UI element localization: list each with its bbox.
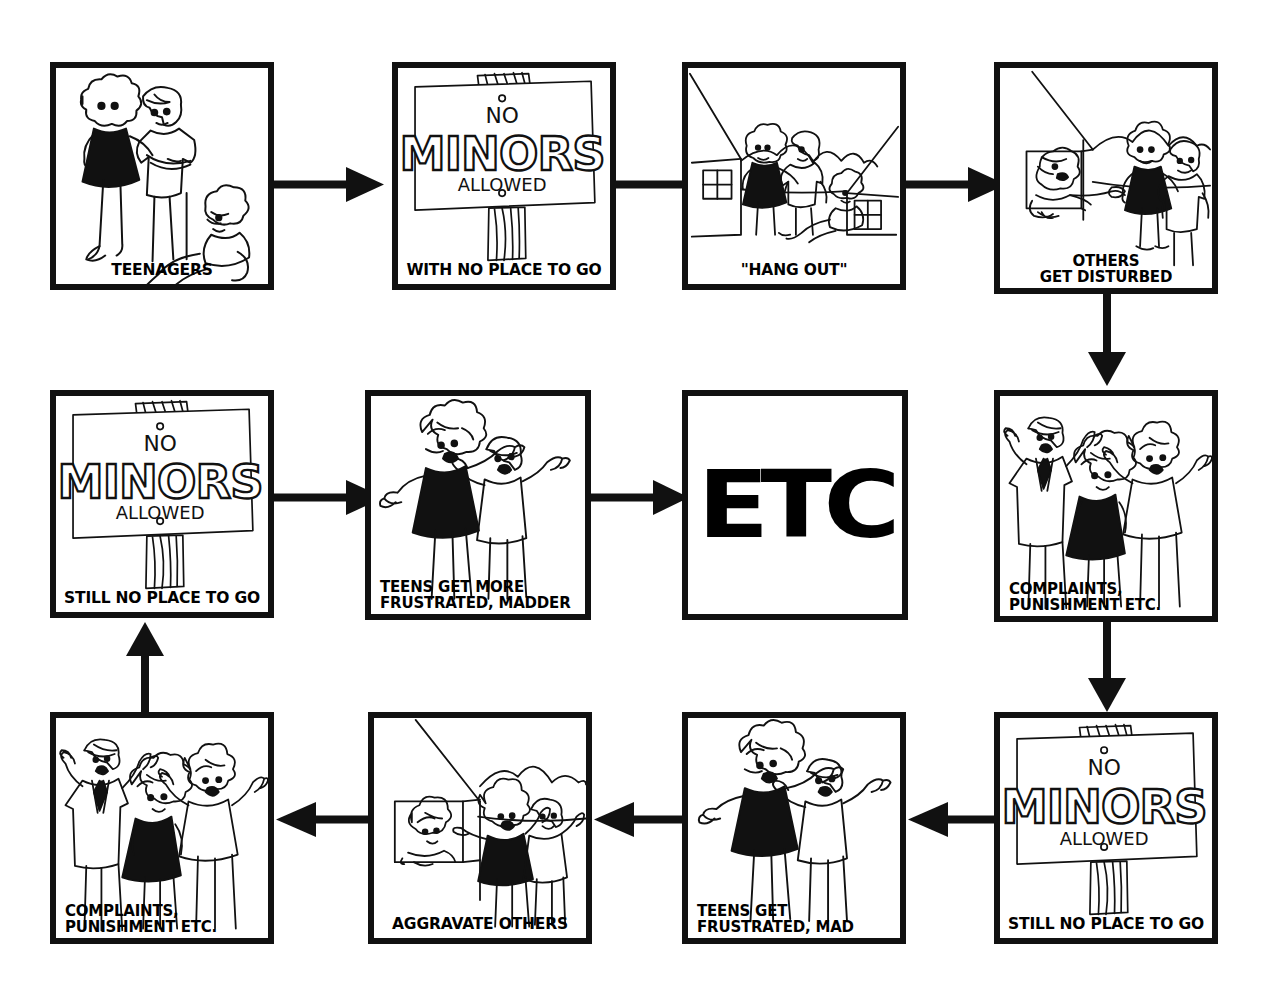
three-teenagers-illustration	[56, 68, 268, 284]
arrow-right-5	[589, 478, 697, 518]
flowchart-figure: TEENAGERS	[0, 0, 1270, 996]
etc-label: ETC	[698, 459, 893, 552]
three-angry-adults-illustration	[1000, 396, 1212, 616]
panel-teens-frustrated: TEENS GET FRUSTRATED, MAD	[682, 712, 906, 944]
sign-line-allowed: ALLOWED	[116, 502, 205, 523]
sign-line-allowed: ALLOWED	[1060, 828, 1149, 849]
panel-hang-out: "HANG OUT"	[682, 62, 906, 290]
arrow-down-1	[1085, 290, 1129, 390]
three-angry-adults-illustration	[56, 718, 268, 938]
arrow-up-1	[123, 618, 167, 718]
panel-others-get-disturbed: OTHERS GET DISTURBED	[994, 62, 1218, 294]
two-frustrated-teens-illustration	[371, 396, 585, 614]
panel-no-minors-sign-2: NO MINORS ALLOWED STILL NO PLACE TO GO	[50, 390, 274, 618]
sign-line-allowed: ALLOWED	[458, 174, 547, 195]
no-minors-sign-illustration: NO MINORS ALLOWED	[56, 396, 268, 612]
no-minors-sign-illustration: NO MINORS ALLOWED	[398, 68, 610, 284]
panel-complaints-punishment-2: COMPLAINTS, PUNISHMENT ETC.	[50, 712, 274, 944]
sign-line-minors: MINORS	[1002, 780, 1207, 834]
panel-no-minors-sign-3: NO MINORS ALLOWED STILL NO PLACE TO GO	[994, 712, 1218, 944]
no-minors-sign-illustration: NO MINORS ALLOWED	[1000, 718, 1212, 938]
sign-line-no: NO	[485, 103, 518, 128]
panel-no-minors-sign-1: NO MINORS ALLOWED WITH NO PLACE TO GO	[392, 62, 616, 290]
panel-teenagers: TEENAGERS	[50, 62, 274, 290]
panel-complaints-punishment-1: COMPLAINTS, PUNISHMENT ETC.	[994, 390, 1218, 622]
arrow-left-1	[272, 800, 382, 840]
panel-etc: ETC	[682, 390, 908, 620]
panel-teens-more-frustrated: TEENS GET MORE FRUSTRATED, MADDER	[365, 390, 591, 620]
teens-aggravate-neighbour-illustration	[374, 718, 586, 938]
neighbour-at-window-illustration	[1000, 68, 1212, 288]
sign-line-no: NO	[143, 431, 176, 456]
sign-line-no: NO	[1087, 755, 1120, 780]
arrow-down-2	[1085, 618, 1129, 718]
arrow-right-1	[272, 165, 392, 205]
etc-label-wrapper: ETC	[688, 462, 902, 548]
two-frustrated-teens-illustration	[688, 718, 900, 938]
teens-between-houses-illustration	[688, 68, 900, 284]
panel-aggravate-others: AGGRAVATE OTHERS	[368, 712, 592, 944]
